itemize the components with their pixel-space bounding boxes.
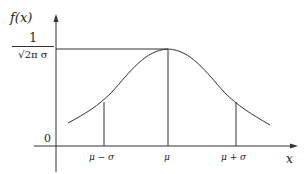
y-axis-label: f(x) — [10, 10, 32, 25]
x-axis-label: x — [286, 152, 293, 166]
peak-denominator: √2π σ — [12, 48, 54, 61]
peak-numerator: 1 — [12, 32, 54, 45]
x-tick-mu-minus-sigma: μ − σ — [89, 152, 114, 162]
density-curve — [68, 49, 270, 125]
normal-curve-diagram — [0, 0, 304, 174]
x-axis-arrow-icon — [290, 144, 298, 149]
x-tick-mu: μ — [164, 152, 170, 162]
fraction-bar — [12, 46, 54, 47]
origin-label: 0 — [44, 132, 51, 145]
y-axis-arrow-icon — [54, 14, 59, 22]
x-tick-mu-plus-sigma: μ + σ — [221, 152, 246, 162]
peak-value-label: 1 √2π σ — [12, 32, 54, 61]
